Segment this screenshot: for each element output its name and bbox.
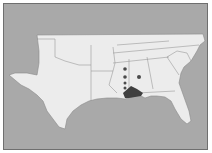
us-southeast-map [4, 4, 207, 149]
point-marker [124, 87, 127, 90]
land-mass [9, 34, 205, 129]
point-marker [123, 75, 127, 79]
map-figure [0, 0, 212, 153]
point-marker [137, 75, 141, 79]
map-panel [3, 3, 208, 150]
point-marker [123, 67, 127, 71]
point-marker [124, 82, 127, 85]
